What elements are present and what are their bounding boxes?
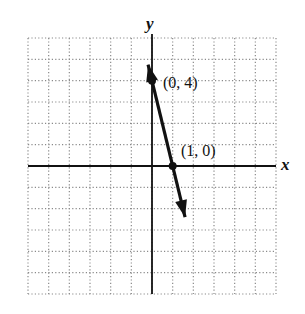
point-marker	[169, 162, 177, 170]
point-label-1-0: (1, 0)	[181, 142, 216, 160]
point-marker	[148, 77, 156, 85]
point-label-0-4: (0, 4)	[163, 74, 198, 92]
coordinate-plane: y x (0, 4) (1, 0)	[0, 0, 305, 314]
arrowhead-down-icon	[175, 199, 187, 217]
x-axis-label: x	[280, 155, 290, 174]
y-axis-label: y	[144, 14, 154, 33]
